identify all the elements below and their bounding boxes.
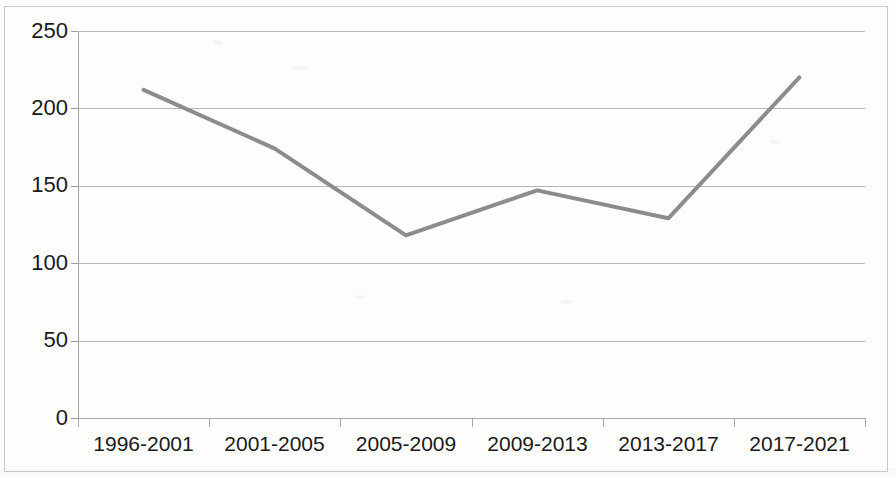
chart-page: 250 200 150 100 50 0 1996-2001 2001-2005… xyxy=(0,0,896,478)
y-axis-label-200: 200 xyxy=(0,97,68,121)
x-axis-label-2013-2017: 2013-2017 xyxy=(603,432,734,456)
y-axis-label-100: 100 xyxy=(0,252,68,276)
y-axis-label-50: 50 xyxy=(0,329,68,353)
y-axis-label-250: 250 xyxy=(0,20,68,44)
x-axis-tick-5 xyxy=(734,418,735,427)
x-axis-tick-3 xyxy=(472,418,473,427)
y-axis-label-0: 0 xyxy=(0,407,68,431)
y-axis-label-text: 50 xyxy=(6,329,68,351)
x-axis-tick-0 xyxy=(78,418,79,427)
x-axis-tick-6 xyxy=(865,418,866,427)
x-axis-label-2017-2021: 2017-2021 xyxy=(734,432,865,456)
x-axis-label-2009-2013: 2009-2013 xyxy=(472,432,603,456)
x-axis-tick-4 xyxy=(603,418,604,427)
y-axis-label-text: 150 xyxy=(6,174,68,196)
gridline-250 xyxy=(78,31,865,32)
gridline-50 xyxy=(78,341,865,342)
x-axis-tick-2 xyxy=(340,418,341,427)
y-axis-label-text: 200 xyxy=(6,97,68,119)
gridline-150 xyxy=(78,186,865,187)
x-axis-label-2005-2009: 2005-2009 xyxy=(340,432,472,456)
plot-area xyxy=(78,31,865,418)
x-axis-label-2001-2005: 2001-2005 xyxy=(209,432,340,456)
y-axis-label-text: 250 xyxy=(6,20,68,42)
y-axis-label-150: 150 xyxy=(0,174,68,198)
y-axis-label-text: 0 xyxy=(6,407,68,429)
gridline-100 xyxy=(78,263,865,264)
y-axis-label-text: 100 xyxy=(6,252,68,274)
x-axis-label-1996-2001: 1996-2001 xyxy=(78,432,209,456)
gridline-200 xyxy=(78,108,865,109)
x-axis-tick-1 xyxy=(209,418,210,427)
